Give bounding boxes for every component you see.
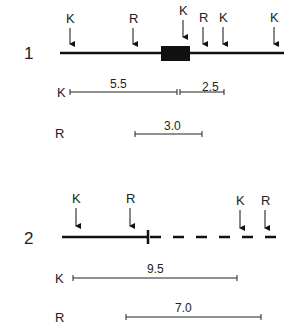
site-label: R	[261, 193, 270, 208]
map-2-r-fragment-1	[126, 314, 261, 320]
map-1-site-r2: R	[199, 10, 208, 44]
site-label: K	[219, 10, 228, 25]
map-1: 1 K R K R K K K	[24, 3, 284, 141]
map-2: 2 K R K R K 9.5 R	[24, 191, 284, 325]
site-label: K	[270, 10, 279, 25]
map-1-site-k3: K	[219, 10, 228, 44]
map-2-site-k2: K	[236, 193, 245, 228]
site-label: R	[199, 10, 208, 25]
map-1-k-distance-1: 5.5	[110, 77, 127, 91]
map-1-k-row-label: K	[57, 85, 66, 100]
map-1-site-k1: K	[66, 11, 75, 44]
map-2-site-r1: R	[126, 191, 135, 226]
map-2-site-k1: K	[72, 191, 81, 226]
map-1-site-k4: K	[270, 10, 279, 44]
map-1-number: 1	[24, 44, 33, 63]
map-1-r-row-label: R	[55, 126, 64, 141]
map-2-k-row-label: K	[55, 271, 64, 286]
map-2-k-distance-1: 9.5	[147, 262, 164, 276]
site-label: K	[66, 11, 75, 26]
restriction-map-diagram: 1 K R K R K K K	[0, 0, 290, 332]
map-2-r-distance-1: 7.0	[175, 301, 192, 315]
site-label: K	[179, 3, 188, 18]
map-2-site-r2: R	[261, 193, 270, 228]
map-1-r-distance-1: 3.0	[164, 119, 181, 133]
map-1-site-r1: R	[129, 11, 138, 44]
site-label: R	[129, 11, 138, 26]
site-label: K	[236, 193, 245, 208]
site-label: K	[72, 191, 81, 206]
map-2-number: 2	[24, 229, 33, 248]
map-1-site-k2: K	[179, 3, 188, 37]
map-1-insert-block	[161, 46, 190, 61]
site-label: R	[126, 191, 135, 206]
map-1-k-distance-2: 2.5	[202, 80, 219, 94]
map-2-r-row-label: R	[55, 310, 64, 325]
